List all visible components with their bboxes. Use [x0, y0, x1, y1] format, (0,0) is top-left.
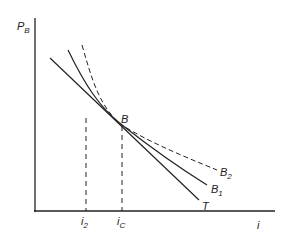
curve-B1 [68, 50, 207, 185]
curve-B1-label: B1 [211, 183, 223, 198]
tick-i2-label: i2 [81, 215, 88, 230]
tick-ic-label: iC [117, 215, 125, 230]
x-axis-label: i [257, 219, 260, 231]
point-B-label: B [121, 113, 128, 125]
curve-T-label: T [202, 200, 210, 212]
y-axis-label: PB [17, 20, 30, 35]
bond-price-diagram: PB i B B2 B1 T i2 iC [0, 0, 290, 239]
tangent-line-T [50, 58, 199, 200]
curve-B2-label: B2 [220, 166, 232, 181]
